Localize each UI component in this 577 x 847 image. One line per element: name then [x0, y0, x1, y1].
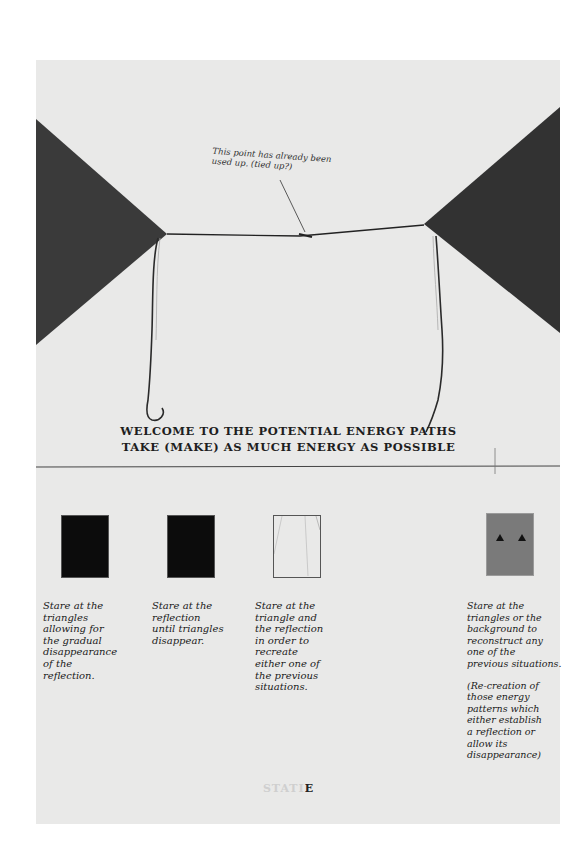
headline-line-2: TAKE (MAKE) AS MUCH ENERGY AS POSSIBLE — [0, 440, 577, 454]
stamp-solid: E — [305, 782, 314, 795]
right-triangle — [424, 107, 560, 333]
instruction-2: Stare at the reflection until triangles … — [152, 600, 224, 646]
connecting-string — [167, 225, 424, 236]
gray-swatch — [486, 513, 534, 576]
mini-triangle-icon — [496, 534, 504, 541]
black-swatch-1 — [61, 515, 109, 578]
instruction-3: Stare at the triangle and the reflection… — [255, 600, 323, 693]
mini-triangle-icon — [518, 534, 526, 541]
stamp-text: STATIE — [0, 782, 577, 795]
instruction-4: Stare at the triangles or the background… — [467, 600, 562, 761]
left-hanging-string — [147, 238, 163, 420]
headline-line-1: WELCOME TO THE POTENTIAL ENERGY PATHS — [0, 424, 577, 438]
left-triangle — [36, 119, 167, 345]
black-swatch-3 — [273, 515, 321, 578]
divider-line — [36, 466, 560, 467]
black-swatch-2 — [167, 515, 215, 578]
stamp-faded: STAT — [263, 782, 299, 795]
annotation-arrow — [280, 180, 305, 232]
instruction-1: Stare at the triangles allowing for the … — [43, 600, 117, 681]
